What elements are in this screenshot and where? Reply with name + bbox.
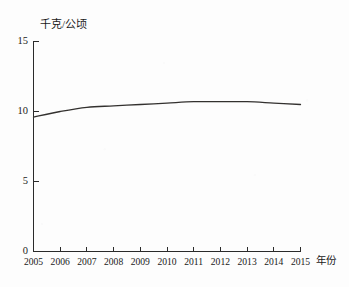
x-tick-label-2008: 2008 (99, 257, 129, 267)
x-tick-label-2012: 2012 (205, 257, 235, 267)
x-tick-label-2011: 2011 (179, 257, 209, 267)
chart-plot-area (0, 0, 349, 287)
x-tick-label-2013: 2013 (232, 257, 262, 267)
y-axis-title: 千克/公顷 (40, 19, 87, 30)
x-tick-label-2015: 2015 (286, 257, 316, 267)
x-tick-label-2007: 2007 (72, 257, 102, 267)
x-tick-marks (60, 247, 300, 252)
y-tick-marks (34, 42, 39, 182)
y-tick-label-5: 5 (6, 176, 28, 187)
x-tick-label-2014: 2014 (259, 257, 289, 267)
y-tick-label-10: 10 (6, 106, 28, 117)
chart-figure: 千克/公顷 15 10 5 0 2005 2006 2007 2008 2009… (0, 0, 349, 287)
x-tick-label-2010: 2010 (152, 257, 182, 267)
y-tick-label-15: 15 (6, 36, 28, 47)
y-tick-label-0: 0 (6, 246, 28, 257)
data-series-line (34, 102, 301, 118)
x-axis-title: 年份 (316, 256, 336, 267)
x-tick-label-2006: 2006 (45, 257, 75, 267)
x-tick-label-2005: 2005 (19, 257, 49, 267)
x-tick-label-2009: 2009 (125, 257, 155, 267)
